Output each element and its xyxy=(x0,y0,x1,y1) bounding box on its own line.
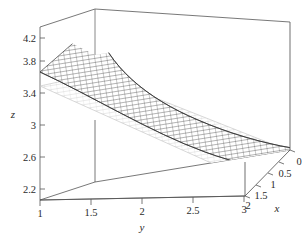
box-edge-bottom-front-2 xyxy=(40,196,245,200)
z-axis-title: z xyxy=(10,108,16,120)
x-tick-mark xyxy=(268,173,273,175)
box-edge-back-top xyxy=(95,9,290,22)
x-tick-mark xyxy=(256,185,261,187)
x-tick-mark xyxy=(290,150,295,152)
y-axis-title: y xyxy=(139,221,145,233)
x-tick-mark xyxy=(245,196,250,198)
z-tick-label: 3.8 xyxy=(23,56,36,67)
y-tick-label: 1.5 xyxy=(84,207,97,218)
z-tick-label: 3.4 xyxy=(23,88,37,99)
box-edge-back-left-top xyxy=(40,9,95,27)
x-tick-label: 2 xyxy=(245,200,250,211)
z-tick-label: 3 xyxy=(31,120,36,131)
y-tick-label: 1 xyxy=(37,208,42,219)
surface-plot-figure: 2.2 2.6 3 3.4 3.8 4.2 z 1 1.5 2 2.5 3 y xyxy=(0,0,308,242)
y-axis: 1 1.5 2 2.5 3 y xyxy=(37,196,246,233)
z-tick-label: 2.2 xyxy=(23,184,36,195)
z-tick-label: 2.6 xyxy=(23,152,36,163)
x-axis-title: x xyxy=(274,202,280,214)
x-tick-label: 0 xyxy=(296,156,301,167)
z-tick-group xyxy=(40,38,45,189)
x-tick-label: 1.5 xyxy=(254,190,267,201)
x-tick-label: 0.5 xyxy=(278,168,291,179)
box-edge-floor-left xyxy=(40,182,95,200)
x-tick-label: 1 xyxy=(270,179,275,190)
y-tick-label: 2 xyxy=(139,206,144,217)
y-tick-label: 2.5 xyxy=(186,205,199,216)
z-tick-label: 4.2 xyxy=(23,33,36,44)
plot-canvas: 2.2 2.6 3 3.4 3.8 4.2 z 1 1.5 2 2.5 3 y xyxy=(0,0,308,242)
x-axis: 2 1.5 1 0.5 0 x xyxy=(245,150,302,214)
y-tick-group xyxy=(40,196,244,206)
x-tick-mark xyxy=(279,162,284,164)
